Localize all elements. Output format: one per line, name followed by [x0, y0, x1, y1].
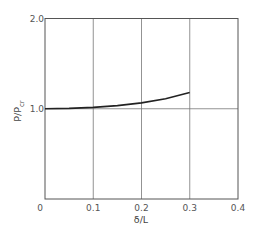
data-series-line	[45, 93, 190, 109]
x-axis-label: δ/L	[134, 214, 149, 225]
x-tick-label: 0	[37, 203, 43, 213]
y-axis-ticks: 1.02.0	[30, 14, 45, 114]
y-tick-label: 1.0	[30, 104, 45, 114]
x-axis-ticks: 00.10.20.30.4	[37, 203, 245, 213]
y-axis-label: P/Pcr	[12, 100, 26, 122]
x-tick-label: 0.3	[183, 203, 197, 213]
chart: 00.10.20.30.4 1.02.0 δ/L P/Pcr	[0, 0, 253, 237]
x-tick-label: 0.4	[231, 203, 246, 213]
x-tick-label: 0.1	[86, 203, 100, 213]
svg-text:P/Pcr: P/Pcr	[12, 100, 26, 122]
y-tick-label: 2.0	[30, 14, 45, 24]
x-tick-label: 0.2	[134, 203, 148, 213]
